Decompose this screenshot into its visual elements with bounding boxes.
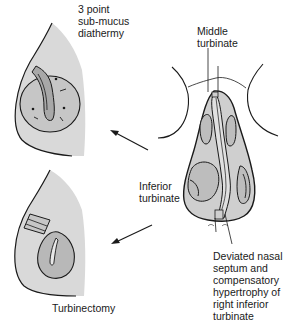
right-cheek-outline: [248, 64, 279, 136]
diathermy-panel: [15, 23, 85, 156]
turbinectomy-panel: [15, 170, 86, 296]
septum-base: [215, 210, 223, 219]
label-inferior-turbinate: Inferior turbinate: [139, 180, 180, 204]
arrow-to-diathermy: [110, 130, 148, 150]
diathermy-point: [55, 78, 58, 81]
brow-line: [188, 77, 246, 88]
septum-top: [212, 92, 218, 97]
left-middle-turbinate: [200, 114, 212, 144]
label-turbinectomy: Turbinectomy: [52, 302, 115, 314]
left-cheek-outline: [158, 67, 189, 138]
label-deviated-septum: Deviated nasal septum and compensatory h…: [213, 250, 282, 322]
nasal-cavity-panel: [158, 48, 278, 244]
label-middle-turbinate: Middle turbinate: [197, 25, 238, 49]
nostril-left: [208, 225, 214, 227]
label-diathermy: 3 point sub-mucus diathermy: [78, 3, 129, 39]
right-middle-turbinate: [226, 116, 236, 146]
diathermy-point: [32, 108, 35, 111]
diathermy-point: [63, 107, 66, 110]
arrow-to-turbinectomy: [111, 225, 152, 244]
